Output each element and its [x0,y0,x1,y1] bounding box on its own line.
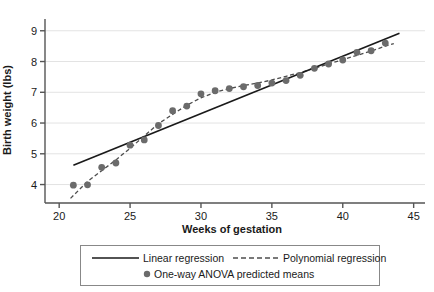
data-point [155,122,162,129]
y-axis-title: Birth weight (lbs) [1,65,13,155]
x-tick-label-40: 40 [337,210,349,222]
legend-dot-icon [144,271,150,277]
birth-weight-gestation-chart: 456789 202530354045 Birth weight (lbs) W… [0,0,434,292]
chart-legend: Linear regression Polynomial regression … [81,246,387,286]
y-tick-label-7: 7 [31,86,37,98]
data-point [212,87,219,94]
x-tick-label-35: 35 [266,210,278,222]
data-point [268,80,275,87]
data-point [112,160,119,167]
data-point [382,40,389,47]
data-point [70,182,77,189]
data-point [98,164,105,171]
legend-label-polynomial: Polynomial regression [283,252,386,264]
x-axis-title: Weeks of gestation [182,223,282,235]
legend-label-anova: One-way ANOVA predicted means [154,268,314,280]
x-tick-label-30: 30 [195,210,207,222]
data-point [368,47,375,54]
data-point [283,77,290,84]
x-tick-label-45: 45 [408,210,420,222]
data-point [183,103,190,110]
data-point [169,107,176,114]
data-point [198,90,205,97]
data-point [297,72,304,79]
data-point [325,61,332,68]
chart-container: 456789 202530354045 Birth weight (lbs) W… [0,0,434,292]
data-point [84,181,91,188]
data-point [226,85,233,92]
y-tick-label-6: 6 [31,117,37,129]
data-point [354,49,361,56]
data-point [240,83,247,90]
data-point [311,65,318,72]
data-point [254,82,261,89]
y-tick-label-5: 5 [31,148,37,160]
y-tick-label-9: 9 [31,25,37,37]
data-point [339,57,346,64]
y-tick-label-8: 8 [31,56,37,68]
data-point [127,142,134,149]
x-tick-label-20: 20 [53,210,65,222]
x-tick-label-25: 25 [124,210,136,222]
data-point [141,137,148,144]
y-tick-label-4: 4 [31,179,37,191]
legend-label-linear: Linear regression [143,252,224,264]
